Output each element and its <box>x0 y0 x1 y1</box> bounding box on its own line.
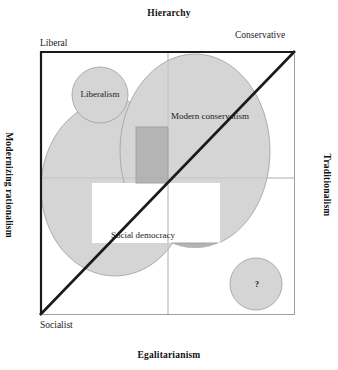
overlap-upper-wedge <box>136 127 168 183</box>
axis-caption-right: Traditionalism <box>322 154 332 217</box>
plot-area: Liberalism Modern conservatism Social de… <box>40 51 295 315</box>
region-unknown <box>230 258 282 310</box>
region-liberalism <box>72 67 128 123</box>
axis-caption-top: Hierarchy <box>0 8 338 18</box>
pole-label-socialist: Socialist <box>40 320 73 330</box>
diagram-canvas: Hierarchy Egalitarianism Modernizing rat… <box>0 0 338 370</box>
pole-label-liberal: Liberal <box>40 38 67 48</box>
axis-caption-left: Modernizing rationalism <box>4 132 14 238</box>
plot-graphics <box>40 51 295 315</box>
axis-caption-bottom: Egalitarianism <box>0 350 338 360</box>
pole-label-conservative: Conservative <box>235 30 285 40</box>
